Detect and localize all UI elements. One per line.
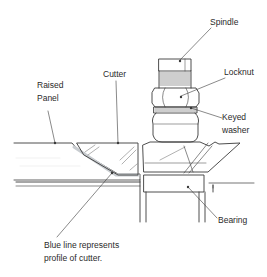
keyed-washer-label: Keyed washer: [222, 111, 249, 137]
collar-icon: [152, 113, 198, 142]
spindle-icon: [159, 59, 191, 88]
bearing-label: Bearing: [218, 214, 247, 227]
locknut-label: Locknut: [224, 66, 254, 79]
table-icon: [140, 180, 213, 222]
spindle-assembly-drawing: [0, 0, 267, 277]
cutter-label: Cutter: [103, 68, 126, 81]
spindle-label: Spindle: [210, 16, 238, 29]
diagram-canvas: Spindle Locknut Keyed washer Cutter Rais…: [0, 0, 267, 277]
raised-panel-label: Raised Panel: [37, 79, 63, 105]
locknut-icon: [152, 88, 199, 107]
bearing-icon: [144, 175, 254, 192]
cutter-head-icon: [143, 142, 240, 173]
cutter-profile-line: [74, 147, 138, 175]
caption: Blue line represents profile of cutter.: [44, 239, 119, 265]
